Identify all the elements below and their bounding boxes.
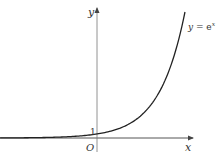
y-axis-label: y — [87, 6, 95, 19]
curve-equation-label: y = ex — [187, 20, 216, 32]
origin-label: O — [86, 142, 94, 153]
curve-eq-exponent: x — [212, 20, 216, 27]
x-axis-label: x — [185, 141, 192, 154]
exp-curve — [0, 12, 185, 138]
exponential-graph: y x O 1 y = ex — [0, 0, 217, 155]
intercept-label: 1 — [90, 127, 96, 137]
curve-eq-base: = e — [193, 22, 212, 32]
